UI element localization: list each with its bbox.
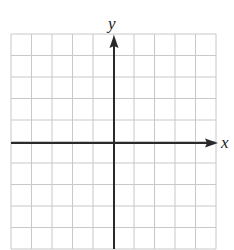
y-axis-label: y	[106, 14, 116, 33]
x-axis-label: x	[220, 133, 229, 152]
coordinate-plane: x y	[0, 0, 234, 250]
